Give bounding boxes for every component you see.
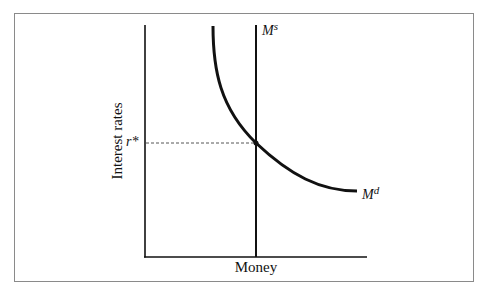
y-axis-label: Interest rates — [109, 102, 126, 179]
x-axis-label: Money — [235, 259, 278, 276]
equilibrium-point — [254, 141, 259, 146]
money-demand-curve — [213, 26, 357, 191]
money-supply-label: Ms — [262, 20, 278, 39]
equilibrium-rate-label: r* — [126, 134, 138, 150]
money-demand-label: Md — [362, 184, 379, 203]
money-market-diagram — [0, 0, 487, 292]
